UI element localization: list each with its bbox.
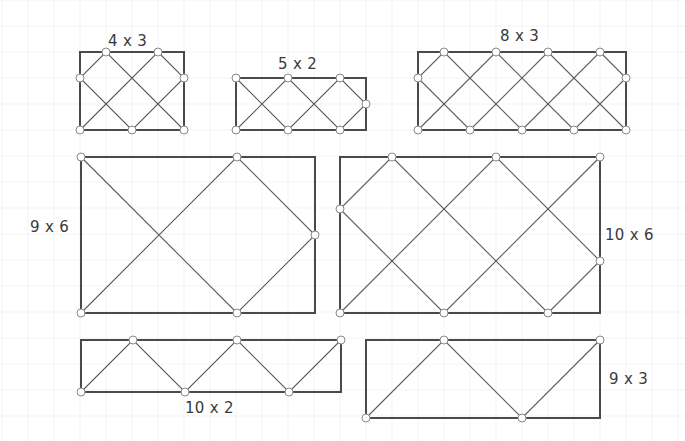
rectangle-label-r5x2: 5 x 2: [278, 55, 317, 73]
bounce-point: [518, 414, 526, 422]
bounce-point: [154, 48, 162, 56]
bounce-point: [77, 388, 85, 396]
rectangle-label-r8x3: 8 x 3: [500, 27, 539, 45]
bounce-point: [596, 257, 604, 265]
rectangle-border: [81, 157, 315, 313]
bounce-point: [77, 309, 85, 317]
bounce-point: [336, 309, 344, 317]
rectangle-r9x6: [77, 153, 319, 317]
bounce-point: [622, 74, 630, 82]
bounce-point: [232, 74, 240, 82]
bounce-point: [544, 309, 552, 317]
bounce-point: [180, 126, 188, 134]
bounce-point: [570, 126, 578, 134]
reflection-path: [366, 340, 600, 418]
bounce-point: [414, 126, 422, 134]
bounce-point: [440, 48, 448, 56]
bounce-point: [285, 388, 293, 396]
bounce-point: [492, 153, 500, 161]
bounce-point: [336, 205, 344, 213]
bounce-point: [336, 126, 344, 134]
bounce-point: [128, 126, 136, 134]
bounce-point: [414, 74, 422, 82]
rectangle-label-r9x6: 9 x 6: [30, 218, 69, 236]
bounce-point: [466, 126, 474, 134]
background-grid: [0, 0, 685, 441]
rectangle-label-r9x3: 9 x 3: [609, 370, 648, 388]
bounce-point: [440, 336, 448, 344]
bounce-point: [596, 153, 604, 161]
bounce-point: [622, 126, 630, 134]
bounce-point: [233, 336, 241, 344]
bounce-point: [311, 231, 319, 239]
bounce-point: [77, 153, 85, 161]
bounce-point: [362, 414, 370, 422]
bounce-point: [181, 388, 189, 396]
rectangle-label-r10x6: 10 x 6: [605, 226, 654, 244]
bounce-point: [233, 309, 241, 317]
bounce-point: [233, 153, 241, 161]
billiard-path-diagram: [0, 0, 685, 441]
rectangle-label-r4x3: 4 x 3: [108, 32, 147, 50]
bounce-point: [596, 336, 604, 344]
bounce-point: [284, 126, 292, 134]
rectangle-r9x3: [362, 336, 604, 422]
bounce-point: [440, 309, 448, 317]
bounce-point: [337, 336, 345, 344]
bounce-point: [388, 153, 396, 161]
bounce-point: [284, 74, 292, 82]
rectangle-r10x2: [77, 336, 345, 396]
bounce-point: [518, 126, 526, 134]
bounce-point: [492, 48, 500, 56]
rectangle-label-r10x2: 10 x 2: [185, 399, 234, 417]
bounce-point: [129, 336, 137, 344]
reflection-path: [81, 340, 341, 392]
reflection-path: [81, 157, 315, 313]
bounce-point: [76, 74, 84, 82]
bounce-point: [362, 100, 370, 108]
bounce-point: [544, 48, 552, 56]
bounce-point: [232, 126, 240, 134]
bounce-point: [596, 48, 604, 56]
bounce-point: [336, 74, 344, 82]
bounce-point: [180, 74, 188, 82]
bounce-point: [76, 126, 84, 134]
